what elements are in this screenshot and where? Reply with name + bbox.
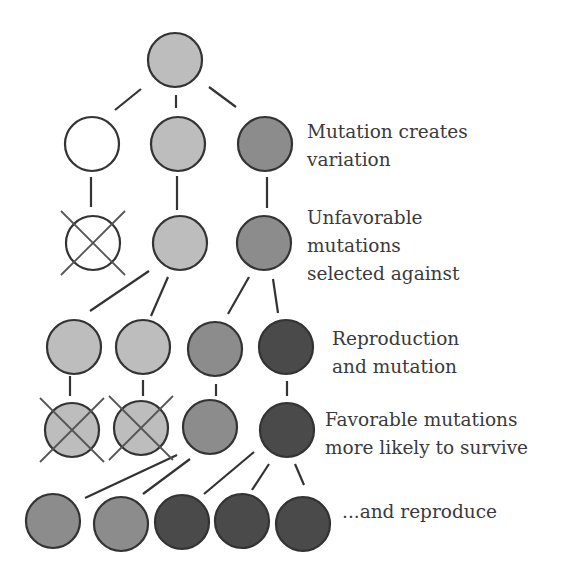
lineage-connector	[209, 87, 236, 107]
organism-node	[259, 320, 313, 374]
lineage-connector	[143, 459, 190, 494]
organism-node	[148, 33, 202, 87]
label-line: variation	[307, 146, 468, 174]
organism-node	[215, 494, 269, 548]
lineage-connector	[252, 464, 269, 490]
organism-node	[151, 117, 205, 171]
organism-node	[26, 494, 80, 548]
label-line: Unfavorable	[307, 204, 459, 232]
label-line: Mutation creates	[307, 118, 468, 146]
organism-node	[47, 320, 101, 374]
eliminated-organism-node	[40, 398, 104, 462]
label-and-reproduce: ...and reproduce	[342, 498, 497, 526]
organism-node	[153, 216, 207, 270]
organism-node	[183, 400, 237, 454]
lineage-connector	[204, 452, 254, 494]
label-line: selected against	[307, 260, 459, 288]
label-line: ...and reproduce	[342, 498, 497, 526]
evolution-tree-diagram	[0, 0, 575, 573]
label-line: Reproduction	[332, 325, 459, 353]
organism-node	[188, 322, 242, 376]
label-unfavorable-selected-against: Unfavorable mutations selected against	[307, 204, 459, 288]
organism-node	[260, 403, 314, 457]
lineage-connector	[151, 277, 168, 316]
lineage-connector	[115, 89, 141, 110]
eliminated-organism-node	[109, 396, 173, 460]
lineage-connector	[295, 464, 304, 485]
label-reproduction-and-mutation: Reproduction and mutation	[332, 325, 459, 381]
label-line: more likely to survive	[325, 434, 528, 462]
organism-node	[65, 117, 119, 171]
organism-node	[94, 497, 148, 551]
label-mutation-creates-variation: Mutation creates variation	[307, 118, 468, 174]
label-line: Favorable mutations	[325, 406, 528, 434]
label-line: mutations	[307, 232, 459, 260]
organism-node	[238, 117, 292, 171]
organism-node	[116, 320, 170, 374]
organism-node	[237, 216, 291, 270]
lineage-connector	[273, 279, 278, 313]
eliminated-organism-node	[61, 211, 125, 275]
organism-node	[155, 495, 209, 549]
lineage-connector	[228, 277, 249, 314]
label-line: and mutation	[332, 353, 459, 381]
organism-node	[276, 497, 330, 551]
label-favorable-more-likely-survive: Favorable mutations more likely to survi…	[325, 406, 528, 462]
lineage-connector	[90, 271, 149, 311]
lineage-connector	[85, 455, 177, 498]
